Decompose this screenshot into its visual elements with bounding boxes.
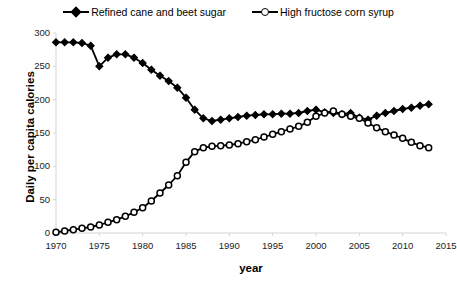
data-point-circle (140, 205, 146, 211)
data-point-circle (252, 137, 258, 143)
x-axis-title: year (56, 262, 446, 274)
y-tick-label: 150 (20, 128, 50, 138)
data-point-circle (244, 139, 250, 145)
data-point-circle (96, 222, 102, 228)
data-point-circle (356, 115, 362, 121)
data-point-circle (157, 190, 163, 196)
y-tick-label: 200 (20, 95, 50, 105)
x-tick-label: 1990 (209, 241, 249, 251)
y-tick-label: 50 (20, 195, 50, 205)
data-point-circle (174, 173, 180, 179)
data-point-diamond (278, 110, 285, 117)
chart-container: Refined cane and beet sugar High fructos… (0, 0, 457, 283)
x-tick-label: 2015 (426, 241, 457, 251)
data-point-circle (304, 119, 310, 125)
x-tick-label: 1975 (79, 241, 119, 251)
data-point-diamond (79, 40, 86, 47)
data-point-diamond (373, 112, 380, 119)
data-point-diamond (391, 108, 398, 115)
data-point-circle (183, 159, 189, 165)
data-point-circle (88, 224, 94, 230)
data-point-diamond (235, 114, 242, 121)
data-point-diamond (53, 39, 60, 46)
data-point-diamond (226, 115, 233, 122)
data-point-diamond (87, 42, 94, 49)
data-point-diamond (425, 101, 432, 108)
data-point-circle (374, 125, 380, 131)
data-point-circle (426, 145, 432, 151)
plot-area: Daily per capita calories year 050100150… (0, 0, 457, 283)
data-point-circle (313, 113, 319, 119)
data-point-circle (278, 129, 284, 135)
x-tick-label: 2005 (339, 241, 379, 251)
data-point-diamond (217, 116, 224, 123)
data-point-circle (166, 182, 172, 188)
data-point-circle (79, 225, 85, 231)
data-point-circle (200, 145, 206, 151)
data-point-circle (62, 228, 68, 234)
data-point-diamond (243, 112, 250, 119)
data-point-diamond (61, 39, 68, 46)
x-tick-label: 1995 (253, 241, 293, 251)
data-point-circle (226, 142, 232, 148)
data-point-diamond (382, 110, 389, 117)
data-point-circle (235, 141, 241, 147)
data-point-circle (192, 149, 198, 155)
data-point-circle (131, 209, 137, 215)
data-point-circle (322, 110, 328, 116)
data-point-circle (70, 227, 76, 233)
data-point-circle (218, 143, 224, 149)
y-tick-label: 0 (20, 228, 50, 238)
data-point-circle (53, 229, 59, 235)
data-point-diamond (304, 108, 311, 115)
data-point-circle (296, 123, 302, 129)
data-point-circle (261, 134, 267, 140)
y-tick-label: 100 (20, 161, 50, 171)
data-point-circle (365, 120, 371, 126)
data-point-diamond (261, 111, 268, 118)
data-point-circle (408, 139, 414, 145)
data-point-circle (105, 219, 111, 225)
data-point-circle (122, 213, 128, 219)
data-point-circle (391, 132, 397, 138)
data-point-circle (417, 143, 423, 149)
data-point-circle (270, 131, 276, 137)
data-point-diamond (399, 106, 406, 113)
data-point-diamond (122, 51, 129, 58)
data-point-diamond (408, 104, 415, 111)
y-tick-label: 300 (20, 28, 50, 38)
series-line-hfcs (56, 111, 429, 232)
data-point-diamond (70, 39, 77, 46)
data-point-circle (287, 126, 293, 132)
data-point-circle (330, 108, 336, 114)
data-point-diamond (209, 118, 216, 125)
data-point-diamond (295, 110, 302, 117)
data-point-diamond (252, 112, 259, 119)
x-tick-label: 1985 (166, 241, 206, 251)
x-tick-label: 2000 (296, 241, 336, 251)
data-point-diamond (269, 111, 276, 118)
data-point-circle (148, 198, 154, 204)
data-point-circle (114, 217, 120, 223)
data-point-circle (400, 135, 406, 141)
data-point-diamond (417, 102, 424, 109)
data-point-diamond (313, 106, 320, 113)
y-tick-label: 250 (20, 61, 50, 71)
data-point-diamond (113, 51, 120, 58)
data-point-circle (339, 111, 345, 117)
x-tick-label: 1970 (36, 241, 76, 251)
data-point-circle (348, 113, 354, 119)
series-line-refined-sugar (56, 42, 429, 121)
data-point-diamond (287, 110, 294, 117)
x-tick-label: 1980 (123, 241, 163, 251)
data-point-circle (209, 143, 215, 149)
series-layer (53, 39, 432, 235)
x-tick-label: 2010 (383, 241, 423, 251)
data-point-circle (382, 129, 388, 135)
